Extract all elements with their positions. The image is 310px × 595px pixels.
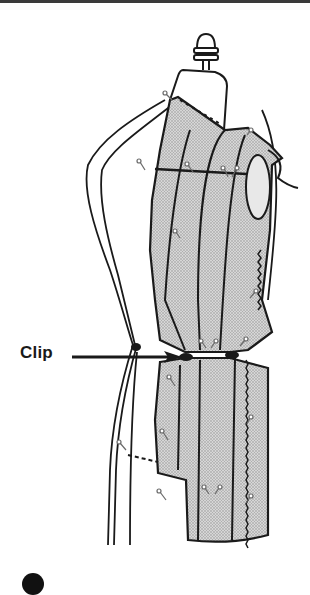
clip-callout-label: Clip [20,343,53,363]
skirt-fabric-piece [155,358,268,542]
hip-basting [128,455,158,462]
armhole-outline [246,155,270,219]
clip-callout-arrow [72,351,182,363]
dress-form-finial [194,34,218,70]
step-number-bullet [22,573,44,595]
